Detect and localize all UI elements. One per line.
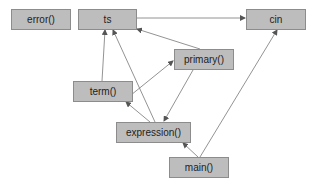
edge-primary-ts [137,29,200,49]
node-label: expression() [126,127,181,138]
edge-main-expression [183,143,198,157]
node-main: main() [169,157,229,178]
node-label: error() [27,14,55,25]
node-label: primary() [184,54,224,65]
edge-primary-expression [164,70,193,121]
node-label: main() [185,162,213,173]
node-error: error() [11,9,71,30]
node-term: term() [73,81,133,102]
node-ts: ts [78,9,137,30]
node-label: ts [104,14,112,25]
node-label: cin [270,14,283,25]
node-cin: cin [246,9,306,30]
edge-expression-term [126,102,150,122]
edge-term-primary [131,61,173,95]
node-label: term() [90,86,117,97]
edge-term-ts [102,30,105,81]
node-expression: expression() [116,122,191,143]
node-primary: primary() [174,49,234,70]
